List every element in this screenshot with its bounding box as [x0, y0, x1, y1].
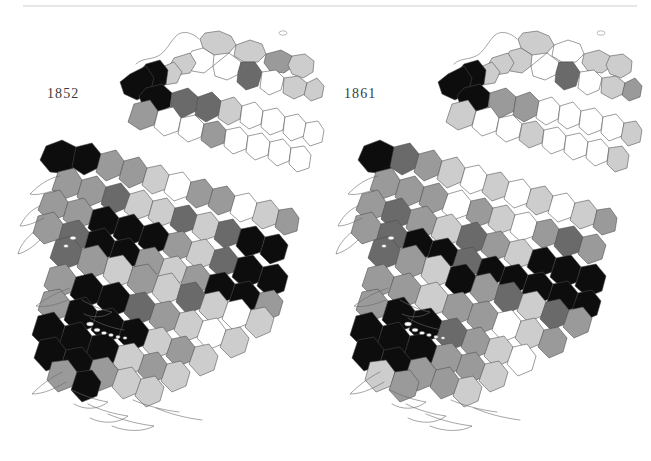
coastline-segment-10	[88, 404, 128, 422]
coastline-segment-10	[406, 404, 446, 422]
islet-6	[419, 331, 424, 334]
district-e23[interactable]	[446, 100, 476, 130]
islet-5	[412, 328, 418, 332]
district-d29[interactable]	[268, 139, 291, 166]
district-d2[interactable]	[234, 40, 266, 62]
islet-7	[427, 334, 432, 337]
district-d8[interactable]	[260, 70, 284, 95]
islet-3	[64, 245, 69, 248]
islet-9	[441, 337, 445, 340]
district-e21[interactable]	[601, 114, 624, 141]
district-e18[interactable]	[536, 97, 560, 125]
islet-2	[70, 236, 76, 240]
district-d20[interactable]	[261, 108, 285, 135]
coastline-segment-11	[426, 414, 472, 431]
map-year-label-1852: 1852	[47, 86, 79, 102]
islet-3	[382, 245, 387, 248]
district-d26[interactable]	[201, 121, 226, 148]
district-e41[interactable]	[593, 208, 617, 235]
islet-4	[87, 322, 94, 326]
coastline-segment-13	[156, 408, 202, 420]
district-e7[interactable]	[555, 62, 580, 90]
islet-8	[434, 336, 438, 339]
district-d27[interactable]	[224, 127, 248, 154]
district-d9[interactable]	[283, 76, 307, 99]
choropleth-map-1852	[0, 0, 326, 461]
district-d41[interactable]	[275, 208, 299, 235]
islet-9	[123, 337, 127, 340]
district-e28[interactable]	[564, 133, 588, 160]
district-d21[interactable]	[283, 114, 306, 141]
figure-canvas: 1852 1861	[0, 0, 651, 461]
district-d19[interactable]	[240, 102, 263, 129]
islet-7	[109, 334, 114, 337]
islet-1	[279, 31, 287, 35]
district-e19[interactable]	[558, 102, 581, 129]
district-d23[interactable]	[128, 100, 158, 130]
islet-1	[597, 31, 605, 35]
district-layer	[350, 31, 642, 407]
district-e4[interactable]	[606, 54, 632, 78]
islet-4	[405, 322, 412, 326]
district-e20[interactable]	[579, 108, 603, 135]
map-panel-1861	[318, 0, 644, 461]
district-e26[interactable]	[519, 121, 544, 148]
district-d7[interactable]	[237, 62, 262, 90]
district-e29[interactable]	[586, 139, 609, 166]
islet-2	[388, 236, 394, 240]
map-year-label-1861: 1861	[344, 86, 376, 102]
district-d4[interactable]	[288, 54, 314, 78]
district-e25[interactable]	[496, 115, 522, 142]
district-d17[interactable]	[195, 92, 221, 122]
choropleth-map-1861	[318, 0, 644, 461]
islet-6	[101, 331, 106, 334]
district-e30[interactable]	[607, 146, 629, 172]
islet-8	[116, 336, 120, 339]
coastline-segment-11	[108, 414, 154, 431]
coastline-segment-13	[474, 408, 520, 420]
map-panel-1852: 1852	[0, 0, 326, 461]
district-e22[interactable]	[621, 121, 642, 146]
district-d18[interactable]	[218, 97, 242, 125]
district-d25[interactable]	[178, 115, 204, 142]
district-e2[interactable]	[552, 40, 584, 62]
district-e17[interactable]	[513, 92, 539, 122]
district-e10[interactable]	[622, 78, 642, 101]
district-d30[interactable]	[289, 146, 311, 172]
district-e9[interactable]	[601, 76, 625, 99]
islet-5	[94, 328, 100, 332]
district-e8[interactable]	[578, 70, 602, 95]
district-e27[interactable]	[542, 127, 566, 154]
district-d28[interactable]	[246, 133, 270, 160]
